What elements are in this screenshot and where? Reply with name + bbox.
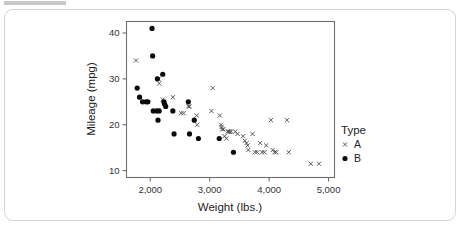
x-axis-label: Weight (lbs.) [198, 201, 263, 213]
data-point-a [287, 150, 291, 154]
y-tick-label: 40 [109, 27, 120, 38]
data-point-b [135, 85, 140, 90]
series-b-points [135, 26, 236, 155]
data-point-b [149, 26, 154, 31]
data-point-a [264, 143, 268, 147]
legend-entries: AB [342, 138, 361, 164]
data-point-a [285, 118, 289, 122]
data-point-a [211, 86, 215, 90]
x-axis-ticks: 2,0003,0004,0005,000 [138, 178, 340, 195]
data-point-a [157, 81, 161, 85]
data-point-b [171, 131, 176, 136]
data-point-a [171, 95, 175, 99]
data-point-a [241, 134, 245, 138]
data-point-a [269, 118, 273, 122]
data-point-a [246, 148, 250, 152]
legend-marker-a [343, 142, 347, 146]
data-point-b [186, 99, 191, 104]
data-point-b [217, 136, 222, 141]
data-point-b [155, 118, 160, 123]
data-point-b [231, 150, 236, 155]
data-point-b [187, 131, 192, 136]
legend-title: Type [341, 124, 366, 136]
plot-frame [127, 22, 335, 178]
y-axis-label: Mileage (mpg) [85, 62, 97, 136]
x-tick-label: 5,000 [317, 184, 341, 195]
data-point-b [145, 99, 150, 104]
data-point-a [195, 123, 199, 127]
data-point-b [160, 72, 165, 77]
data-point-b [155, 76, 160, 81]
scatter-chart: 10203040 2,0003,0004,0005,000 Weight (lb… [0, 0, 462, 231]
y-tick-label: 20 [109, 119, 120, 130]
data-point-b [192, 118, 197, 123]
y-tick-label: 10 [109, 165, 120, 176]
data-point-b [150, 53, 155, 58]
data-point-a [258, 141, 262, 145]
y-axis-ticks: 10203040 [109, 27, 127, 176]
legend: Type AB [341, 124, 366, 164]
data-point-b [157, 108, 162, 113]
data-point-a [309, 162, 313, 166]
y-tick-label: 30 [109, 73, 120, 84]
x-tick-label: 4,000 [257, 184, 281, 195]
data-point-a [209, 109, 213, 113]
data-point-a [255, 150, 259, 154]
x-tick-label: 3,000 [198, 184, 222, 195]
data-point-b [137, 95, 142, 100]
data-point-a [224, 136, 228, 140]
legend-marker-b [342, 156, 347, 161]
x-tick-label: 2,000 [138, 184, 162, 195]
data-point-a [195, 113, 199, 117]
data-point-a [262, 150, 266, 154]
data-point-a [317, 162, 321, 166]
data-point-a [250, 132, 254, 136]
screenshot-root: 10203040 2,0003,0004,0005,000 Weight (lb… [0, 0, 462, 231]
data-point-a [134, 58, 138, 62]
data-point-a [236, 132, 240, 136]
legend-label-b: B [354, 152, 361, 164]
data-point-b [170, 108, 175, 113]
legend-label-a: A [354, 138, 361, 150]
data-point-b [196, 136, 201, 141]
data-point-a [218, 113, 222, 117]
data-point-a [181, 111, 185, 115]
data-point-b [163, 104, 168, 109]
